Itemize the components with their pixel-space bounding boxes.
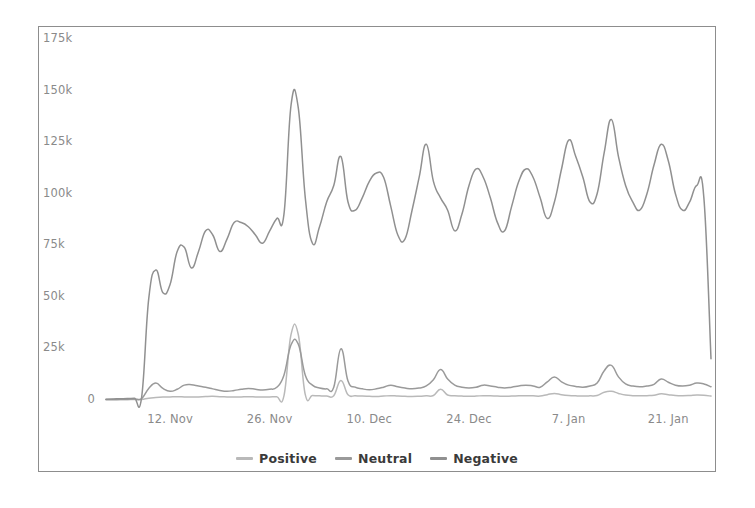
- series-line-neutral: [106, 339, 711, 399]
- legend-line-swatch-icon: [236, 457, 253, 460]
- series-line-negative: [106, 89, 711, 407]
- x-axis-tick-label: 21. Jan: [648, 412, 689, 426]
- legend-item-positive[interactable]: Positive: [236, 451, 317, 466]
- y-axis-tick-label: 25k: [43, 340, 95, 354]
- y-axis-tick-label: 0: [39, 392, 95, 406]
- legend-label: Neutral: [358, 451, 412, 466]
- x-axis-tick-label: 7. Jan: [552, 412, 586, 426]
- y-axis-tick-label: 100k: [43, 186, 95, 200]
- x-axis-tick-label: 26. Nov: [247, 412, 293, 426]
- y-axis-tick-label: 75k: [43, 237, 95, 251]
- legend-item-neutral[interactable]: Neutral: [335, 451, 412, 466]
- chart-legend: PositiveNeutralNegative: [39, 451, 715, 466]
- legend-line-swatch-icon: [335, 457, 352, 460]
- legend-line-swatch-icon: [430, 457, 447, 460]
- y-axis-tick-label: 175k: [43, 31, 95, 45]
- screenshot-root: 025k50k75k100k125k150k175k 12. Nov26. No…: [0, 0, 755, 508]
- legend-label: Positive: [259, 451, 317, 466]
- chart-frame: 025k50k75k100k125k150k175k 12. Nov26. No…: [38, 26, 716, 472]
- line-chart-plot: [39, 27, 717, 473]
- legend-item-negative[interactable]: Negative: [430, 451, 518, 466]
- y-axis-tick-label: 125k: [43, 134, 95, 148]
- series-line-positive: [106, 324, 711, 402]
- legend-label: Negative: [453, 451, 518, 466]
- y-axis-tick-label: 150k: [43, 83, 95, 97]
- x-axis-tick-label: 10. Dec: [347, 412, 393, 426]
- x-axis-tick-label: 24. Dec: [446, 412, 492, 426]
- x-axis-tick-label: 12. Nov: [147, 412, 193, 426]
- y-axis-tick-label: 50k: [43, 289, 95, 303]
